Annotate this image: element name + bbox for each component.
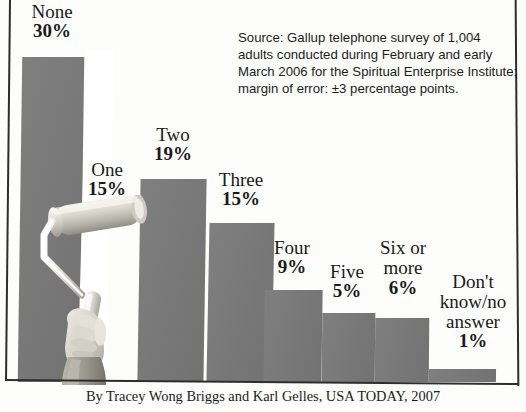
bar-label-five-value: 5% [318,281,376,300]
bar-six-or-more [375,318,430,382]
bar-four [263,290,322,382]
bar-label-six-or-more-category-line1: Six or [370,238,436,258]
credit-line: By Tracey Wong Briggs and Karl Gelles, U… [0,388,526,405]
bar-label-two-value: 19% [140,144,206,163]
bar-label-six-or-more-category-line2: more [370,258,436,278]
bar-label-dont-know-value: 1% [432,331,514,350]
bar-label-two: Two 19% [140,125,206,164]
bar-dont-know [429,369,496,382]
bar-label-dont-know-category-line2: know/no [432,292,514,312]
bar-label-three-value: 15% [204,189,278,208]
bar-label-dont-know-category-line3: answer [432,312,514,332]
bar-label-four-category: Four [262,238,322,257]
bar-label-five-category: Five [318,262,376,281]
bar-label-two-category: Two [140,125,206,144]
bar-label-six-or-more: Six or more 6% [370,238,436,297]
bar-label-none: None 30% [12,2,92,41]
bar-label-dont-know: Don't know/no answer 1% [432,272,514,351]
bar-label-four-value: 9% [262,257,322,276]
bar-label-five: Five 5% [318,262,376,301]
bar-label-one: One 15% [75,160,139,199]
bar-label-one-value: 15% [75,179,139,198]
source-note: Source: Gallup telephone survey of 1,004… [238,30,518,98]
bar-label-dont-know-category-line1: Don't [432,272,514,292]
usa-today-bar-chart: None 30% One 15% Two 19% Three 15% Four … [0,0,526,412]
bar-two [137,179,206,382]
bar-label-three: Three 15% [204,170,278,209]
bar-label-none-value: 30% [12,21,92,40]
bar-label-one-category: One [75,160,139,179]
bar-label-three-category: Three [204,170,278,189]
bar-none [18,57,85,382]
bar-label-four: Four 9% [262,238,322,277]
bar-five [322,313,376,382]
bar-label-none-category: None [12,2,92,21]
bar-label-six-or-more-value: 6% [370,278,436,297]
